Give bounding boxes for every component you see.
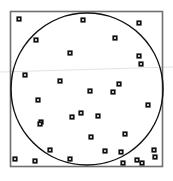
data-point-marker-center: [69, 158, 71, 160]
data-point-marker-center: [37, 99, 39, 101]
data-point-marker-center: [141, 162, 143, 164]
data-point-marker-center: [112, 91, 114, 93]
data-point-marker-center: [147, 104, 149, 106]
data-point-marker-center: [114, 37, 116, 39]
data-point-marker-center: [138, 55, 140, 57]
scatter-plot-figure: [0, 0, 173, 181]
data-point-marker-center: [71, 116, 73, 118]
data-point-marker-center: [24, 74, 26, 76]
data-point-marker-center: [118, 83, 120, 85]
data-point-marker-center: [97, 115, 99, 117]
data-point-marker-center: [122, 162, 124, 164]
data-point-marker-center: [39, 123, 41, 125]
data-point-marker-center: [153, 149, 155, 151]
data-point-marker-center: [69, 52, 71, 54]
data-point-marker-center: [35, 39, 37, 41]
data-point-marker-center: [136, 159, 138, 161]
data-point-marker-center: [14, 158, 16, 160]
data-point-marker-center: [124, 133, 126, 135]
data-point-marker-center: [138, 22, 140, 24]
figure-background: [0, 0, 173, 181]
data-point-marker-center: [18, 18, 20, 20]
data-point-marker-center: [120, 151, 122, 153]
data-point-marker-center: [154, 156, 156, 158]
scatter-plot-canvas: [0, 0, 173, 181]
data-point-marker-center: [49, 149, 51, 151]
data-point-marker-center: [82, 19, 84, 21]
data-point-marker-center: [59, 80, 61, 82]
data-point-marker-center: [90, 136, 92, 138]
data-point-marker-center: [89, 90, 91, 92]
data-point-marker-center: [140, 63, 142, 65]
data-point-marker-center: [80, 112, 82, 114]
data-point-marker-center: [34, 160, 36, 162]
data-point-marker-center: [104, 150, 106, 152]
